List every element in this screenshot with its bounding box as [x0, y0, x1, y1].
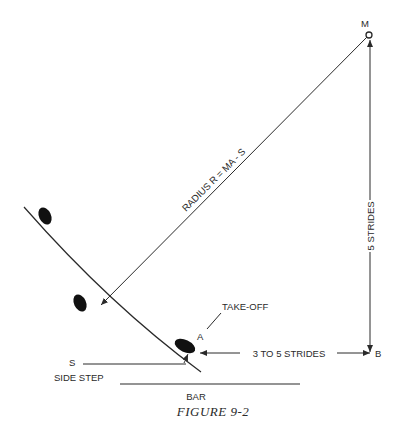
- radius-label: RADIUS R = MA - S: [180, 146, 248, 214]
- label-a: A: [197, 331, 204, 342]
- radius-line: [101, 37, 367, 305]
- bar-label: BAR: [186, 391, 206, 402]
- vertical-dim-label: 5 STRIDES: [365, 201, 376, 250]
- figure-caption: FIGURE 9-2: [176, 404, 250, 419]
- horizontal-dim-label: 3 TO 5 STRIDES: [253, 348, 326, 359]
- side-step-label: SIDE STEP: [54, 372, 104, 383]
- approach-curve: [24, 207, 201, 372]
- take-off-leader: [207, 313, 221, 329]
- label-b: B: [375, 348, 381, 359]
- take-off-label: TAKE-OFF: [222, 301, 268, 312]
- approach-diagram: M RADIUS R = MA - S 5 STRIDES B 3 TO 5 S…: [0, 0, 403, 432]
- label-m: M: [361, 18, 369, 29]
- footprint-2: [71, 292, 89, 313]
- label-s: S: [69, 357, 75, 368]
